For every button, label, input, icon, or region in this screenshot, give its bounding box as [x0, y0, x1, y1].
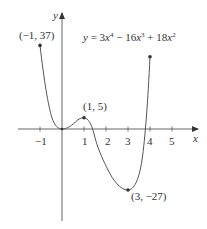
point-right [148, 55, 152, 59]
tick-label: 3 [125, 135, 131, 147]
tick-label: 5 [169, 135, 175, 147]
point-min [126, 188, 130, 192]
tick-label: 1 [82, 135, 88, 147]
point-local-max [82, 116, 86, 120]
point-label-max: (1, 5) [83, 100, 107, 113]
x-axis-label: x [192, 132, 198, 144]
curve [40, 45, 150, 190]
point-label-left: (−1, 37) [19, 29, 55, 42]
point-left [38, 44, 42, 48]
point-label-min: (3, −27) [131, 190, 167, 203]
chart: −1 1 2 3 4 5 x y (−1, 37) (1, 5) (3, −27… [0, 0, 207, 229]
tick-label: 2 [105, 135, 111, 147]
tick-label: 4 [147, 135, 153, 147]
point-origin [61, 128, 64, 131]
y-axis-label: y [52, 9, 58, 21]
tick-label: −1 [35, 135, 47, 147]
equation-title: y = 3x4 − 16x3 + 18x2 [82, 31, 176, 43]
